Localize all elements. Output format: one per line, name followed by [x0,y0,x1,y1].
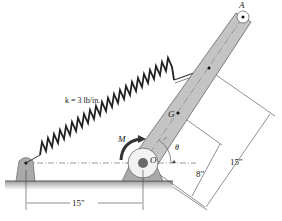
bar-OA [131,11,251,167]
label-spring-constant: k = 3 lb/in. [65,96,100,105]
label-dim-8: 8″ [196,169,205,179]
mechanism-diagram: A G O M θ k = 3 lb/in. 15″ 8″ 15″ [0,0,282,221]
label-theta: θ [175,143,179,152]
label-dim-horizontal: 15″ [72,198,85,208]
label-G: G [168,109,175,119]
label-dim-15-diagonal: 15″ [230,157,243,167]
center-of-mass-G [176,111,179,114]
label-O: O [150,155,157,165]
label-M: M [117,134,126,144]
ground [5,181,173,190]
label-A: A [238,0,245,10]
left-support [16,158,35,182]
diagram-canvas: A G O M θ k = 3 lb/in. 15″ 8″ 15″ [0,0,282,221]
